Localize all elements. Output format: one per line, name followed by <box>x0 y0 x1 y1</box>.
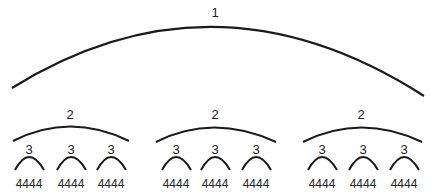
arc-level-3 <box>349 157 378 170</box>
label-level-3: 3 <box>25 143 32 156</box>
hierarchy-arcs <box>0 0 431 196</box>
label-level-3: 3 <box>67 143 74 156</box>
label-level-2: 2 <box>357 108 364 121</box>
label-level-4: 4444 <box>391 178 418 190</box>
arc-level-3 <box>15 157 44 170</box>
label-level-4: 4444 <box>16 178 43 190</box>
arc-level-3 <box>308 157 337 170</box>
arc-level-3 <box>97 157 126 170</box>
arc-level-1 <box>12 27 424 96</box>
label-level-3: 3 <box>172 143 179 156</box>
arc-level-3 <box>201 157 230 170</box>
label-level-4: 4444 <box>98 178 125 190</box>
label-level-3: 3 <box>359 143 366 156</box>
label-level-2: 2 <box>66 108 73 121</box>
label-level-4: 4444 <box>309 178 336 190</box>
arc-level-3 <box>242 157 271 170</box>
label-level-3: 3 <box>107 143 114 156</box>
arc-level-3 <box>390 157 419 170</box>
arc-level-2-group-1 <box>13 127 129 142</box>
label-level-4: 4444 <box>243 178 270 190</box>
label-level-4: 4444 <box>202 178 229 190</box>
label-level-4: 4444 <box>163 178 190 190</box>
arc-level-2-group-2 <box>156 128 276 143</box>
label-level-4: 4444 <box>58 178 85 190</box>
label-level-1: 1 <box>211 6 218 19</box>
label-level-2: 2 <box>211 108 218 121</box>
arc-level-3 <box>162 157 191 170</box>
label-level-3: 3 <box>252 143 259 156</box>
label-level-4: 4444 <box>350 178 377 190</box>
label-level-3: 3 <box>211 143 218 156</box>
label-level-3: 3 <box>400 143 407 156</box>
arc-level-3 <box>57 157 86 170</box>
label-level-3: 3 <box>318 143 325 156</box>
arc-level-2-group-3 <box>303 128 422 143</box>
